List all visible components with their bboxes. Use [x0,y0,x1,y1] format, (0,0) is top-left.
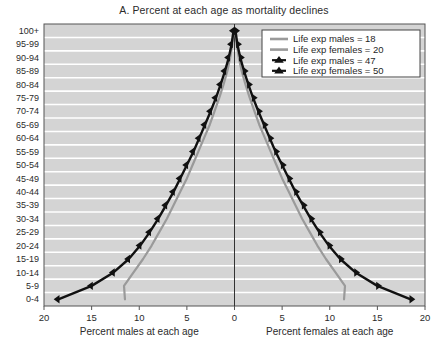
y-tick-label: 30-34 [16,214,39,224]
y-tick-label: 55-59 [16,147,39,157]
y-tick-label: 75-79 [16,93,39,103]
y-tick-label: 15-19 [16,254,39,264]
y-tick-label: 100+ [19,26,39,36]
y-tick-label: 0-4 [26,294,39,304]
legend-label: Life exp males = 47 [293,55,376,66]
legend-label: Life exp females = 20 [293,44,384,55]
legend-label: Life exp females = 50 [293,65,384,76]
x-tick-label: 5 [279,312,284,323]
y-tick-label: 10-14 [16,268,39,278]
x-axis-label-right: Percent females at each age [266,326,394,337]
y-tick-label: 40-44 [16,187,39,197]
y-tick-label: 65-69 [16,120,39,130]
y-tick-label: 60-64 [16,133,39,143]
population-pyramid-chart: A. Percent at each age as mortality decl… [0,0,448,357]
legend-label: Life exp males = 18 [293,33,376,44]
y-tick-label: 5-9 [26,281,39,291]
y-tick-label: 85-89 [16,66,39,76]
x-axis-label-left: Percent males at each age [80,326,199,337]
y-tick-label: 90-94 [16,53,39,63]
x-tick-label: 5 [184,312,189,323]
x-tick-label: 20 [39,312,50,323]
x-tick-label: 10 [324,312,335,323]
y-tick-label: 70-74 [16,106,39,116]
x-tick-label: 15 [372,312,383,323]
plot-canvas: 0-45-910-1415-1920-2425-2930-3435-3940-4… [0,0,448,357]
legend: Life exp males = 18Life exp females = 20… [262,30,420,77]
x-tick-label: 20 [420,312,431,323]
x-axis-ticks: 201510551015200 [39,306,431,323]
x-tick-label: 10 [134,312,145,323]
y-tick-label: 80-84 [16,80,39,90]
y-axis-ticks: 0-45-910-1415-1920-2425-2930-3435-3940-4… [16,26,39,305]
y-tick-label: 45-49 [16,174,39,184]
y-tick-label: 20-24 [16,241,39,251]
x-tick-label: 15 [86,312,97,323]
y-tick-label: 95-99 [16,39,39,49]
y-tick-label: 50-54 [16,160,39,170]
x-tick-label: 0 [232,312,237,323]
y-tick-label: 35-39 [16,200,39,210]
y-tick-label: 25-29 [16,227,39,237]
